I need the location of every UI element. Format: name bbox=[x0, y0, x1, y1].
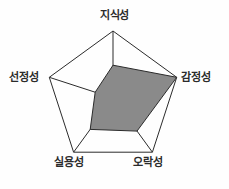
axis-label-knowledge: 지식성 bbox=[0, 10, 229, 21]
axis-label-practicality: 실용성 bbox=[54, 157, 83, 168]
radar-data-polygon bbox=[90, 65, 177, 131]
radar-chart-container: 지식성 감정성 선정성 실용성 오락성 bbox=[0, 0, 229, 189]
radar-chart-graphic bbox=[0, 0, 229, 189]
radar-data-group bbox=[90, 65, 177, 131]
axis-label-emotion: 감정성 bbox=[181, 72, 210, 83]
axis-label-sensationalism: 선정성 bbox=[9, 72, 38, 83]
axis-label-entertainment: 오락성 bbox=[133, 157, 162, 168]
